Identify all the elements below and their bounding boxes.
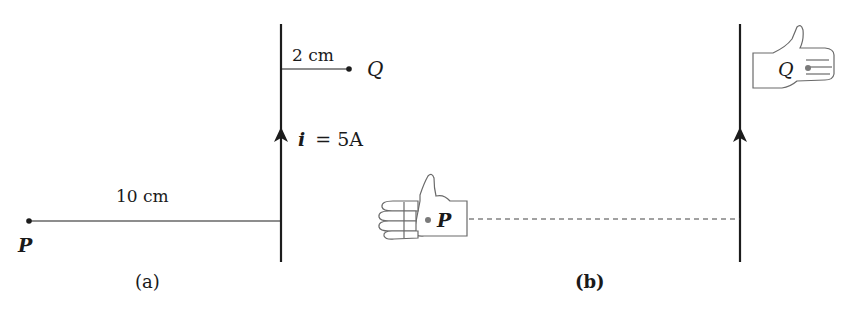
point-p-label-b: P bbox=[436, 209, 452, 231]
caption-a: (a) bbox=[135, 271, 160, 292]
current-value: = 5A bbox=[315, 128, 363, 150]
distance-label-2cm: 2 cm bbox=[292, 45, 334, 65]
point-q-label: Q bbox=[367, 57, 383, 81]
point-q-dot bbox=[346, 66, 352, 72]
magnetic-field-diagram: 2 cm Q i = 5A 10 cm P (a) bbox=[0, 0, 854, 309]
point-q-label-b: Q bbox=[778, 58, 794, 80]
right-hand-p-icon bbox=[379, 174, 467, 239]
caption-b: (b) bbox=[575, 271, 605, 292]
current-symbol: i bbox=[298, 128, 305, 150]
point-p-dot bbox=[425, 217, 431, 223]
panel-a: 2 cm Q i = 5A 10 cm P (a) bbox=[17, 24, 383, 292]
current-label: i = 5A bbox=[298, 128, 363, 150]
point-q-dot bbox=[805, 65, 811, 71]
distance-label-10cm: 10 cm bbox=[116, 186, 169, 206]
panel-b: P Q (b) bbox=[379, 24, 834, 292]
point-p-dot bbox=[26, 218, 32, 224]
point-p-label: P bbox=[17, 234, 33, 256]
